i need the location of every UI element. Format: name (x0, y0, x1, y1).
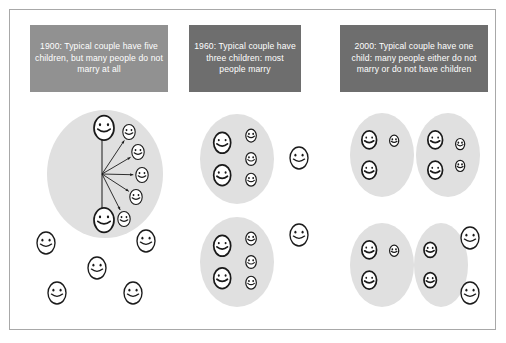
caption-1900-text: 1900: Typical couple have five children,… (35, 41, 163, 76)
caption-1900: 1900: Typical couple have five children,… (30, 25, 168, 92)
caption-2000-text: 2000: Typical couple have one child: man… (345, 41, 483, 76)
caption-1960-text: 1960: Typical couple have three children… (194, 41, 296, 76)
figure-canvas: 1900: Typical couple have five children,… (0, 0, 506, 343)
caption-1960: 1960: Typical couple have three children… (189, 25, 301, 92)
caption-2000: 2000: Typical couple have one child: man… (340, 25, 488, 92)
